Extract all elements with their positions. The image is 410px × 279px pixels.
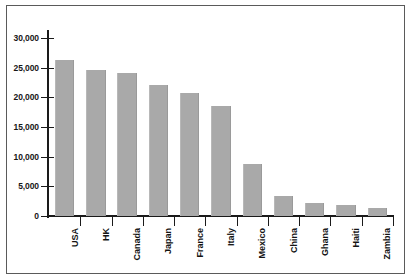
y-axis-tick-label: 30,000 bbox=[0, 33, 39, 43]
x-axis-tick bbox=[393, 217, 394, 226]
y-axis-tick-label: 20,000 bbox=[0, 92, 39, 102]
x-axis-tick bbox=[174, 217, 175, 226]
x-axis-tick bbox=[205, 217, 206, 226]
bar bbox=[55, 60, 74, 216]
y-axis-tick-label: 0 bbox=[0, 211, 39, 221]
x-axis-label: Ghana bbox=[320, 228, 330, 256]
x-axis-label: China bbox=[289, 228, 299, 253]
x-axis-tick bbox=[112, 217, 113, 226]
y-axis-tick-label: 25,000 bbox=[0, 63, 39, 73]
y-axis-tick-label: 15,000 bbox=[0, 122, 39, 132]
x-axis-label: HK bbox=[101, 228, 111, 241]
bar bbox=[149, 85, 168, 216]
x-axis-label: Japan bbox=[163, 228, 173, 254]
x-axis-label: Italy bbox=[226, 228, 236, 246]
x-axis-label: Mexico bbox=[257, 228, 267, 259]
x-axis-label: Haiti bbox=[351, 228, 361, 248]
x-axis-tick bbox=[299, 217, 300, 226]
x-axis-tick bbox=[80, 217, 81, 226]
x-axis-tick bbox=[330, 217, 331, 226]
x-axis-label: France bbox=[195, 228, 205, 258]
x-axis-tick bbox=[268, 217, 269, 226]
x-axis-label: Zambia bbox=[382, 228, 392, 260]
bar bbox=[117, 73, 136, 216]
y-axis-tick-label: 5,000 bbox=[0, 181, 39, 191]
y-axis-tick-label: 10,000 bbox=[0, 152, 39, 162]
bar bbox=[274, 196, 293, 216]
bar bbox=[336, 205, 355, 216]
bar bbox=[368, 208, 387, 216]
x-axis-tick bbox=[143, 217, 144, 226]
bar bbox=[86, 70, 105, 216]
x-axis-label: USA bbox=[70, 228, 80, 247]
chart-figure: 05,00010,00015,00020,00025,00030,000 USA… bbox=[0, 0, 410, 279]
x-axis-tick bbox=[362, 217, 363, 226]
x-axis-tick bbox=[237, 217, 238, 226]
y-axis-tick bbox=[41, 216, 54, 217]
bar bbox=[180, 93, 199, 216]
plot-area bbox=[47, 30, 393, 216]
bar bbox=[243, 164, 262, 216]
bar bbox=[305, 203, 324, 216]
x-axis-label: Canada bbox=[132, 228, 142, 261]
bar bbox=[211, 106, 230, 216]
